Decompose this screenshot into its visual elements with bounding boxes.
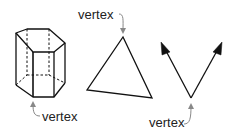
- left-arrowhead-icon: [161, 42, 170, 55]
- hexagonal-prism: [16, 29, 65, 97]
- angle-vertex-pointer: vertex: [149, 106, 191, 130]
- triangle-vertex-label: vertex: [78, 7, 114, 22]
- vertex-diagram: vertex vertex vertex: [0, 0, 238, 140]
- angle-vertex-label: vertex: [149, 115, 185, 130]
- prism-vertex-pointer: vertex: [33, 104, 78, 124]
- triangle: [87, 37, 152, 98]
- triangle-vertex-pointer: vertex: [78, 7, 123, 31]
- angle: [161, 42, 222, 98]
- right-arrowhead-icon: [213, 42, 222, 55]
- top-face: [16, 29, 65, 52]
- prism-vertex-label: vertex: [42, 109, 78, 124]
